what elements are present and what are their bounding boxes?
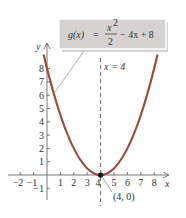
x-axis-label: x — [164, 178, 170, 189]
x-tick-label: 1 — [58, 177, 63, 188]
x-tick-label: 8 — [152, 177, 157, 188]
y-tick-label: 5 — [39, 103, 44, 114]
x-tick-label: 7 — [138, 177, 143, 188]
vertex-pointer-line — [101, 175, 112, 192]
formula-pointer-line — [55, 51, 84, 92]
x-tick-label: 6 — [125, 177, 130, 188]
y-axis-label: y — [35, 41, 41, 52]
y-tick-label: 3 — [39, 130, 44, 141]
axis-of-symmetry-label: x = 4 — [103, 61, 125, 72]
y-tick-label: 8 — [39, 63, 44, 74]
x-tick-label: 3 — [85, 177, 90, 188]
y-tick-label: 7 — [39, 76, 44, 87]
fraction-denominator: 2 — [108, 36, 113, 47]
y-tick-label: 1 — [39, 156, 44, 167]
fraction-numerator: x — [106, 22, 112, 33]
vertex-label: (4, 0) — [113, 191, 135, 203]
y-tick-labels: −1 1 2 3 4 5 6 7 8 — [33, 63, 44, 194]
numerator-exponent: 2 — [113, 17, 118, 28]
formula-rest: − 4x + 8 — [120, 29, 154, 40]
function-graph: g(x) = x 2 2 − 4x + 8 y x — [0, 0, 186, 218]
x-tick-label: 4 — [96, 177, 101, 188]
x-tick-label: 2 — [71, 177, 76, 188]
y-tick-label: 6 — [39, 90, 44, 101]
y-tick-label: 4 — [39, 116, 44, 127]
formula-box: g(x) = x 2 2 − 4x + 8 — [59, 17, 168, 52]
x-tick-label: −2 — [13, 177, 24, 188]
function-name: g(x) — [68, 29, 85, 41]
y-tick-label: −1 — [33, 183, 44, 194]
x-tick-label: 5 — [112, 177, 117, 188]
y-tick-label: 2 — [39, 143, 44, 154]
equals-sign: = — [93, 29, 99, 40]
